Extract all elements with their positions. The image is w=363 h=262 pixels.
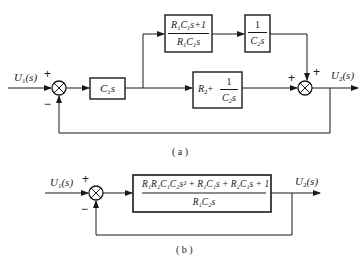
input-symbol: U: [14, 71, 22, 83]
input-label-b: U1(s): [50, 177, 73, 190]
s-symbol: s: [111, 82, 115, 94]
block-middle-denominator: C2s: [222, 92, 236, 104]
block-c1s-label: C1s: [100, 83, 115, 96]
fraction-bar: [248, 32, 267, 33]
summing-junction-b: [89, 186, 103, 200]
caption-a: ( a ): [172, 147, 188, 157]
block-middle-r2: R2+: [198, 84, 213, 96]
input-label-a: U1(s): [14, 72, 37, 85]
input-arg: (s): [25, 71, 37, 83]
caption-b: ( b ): [176, 245, 193, 255]
block-top-1-fraction: R1C1s+1 R1C1s: [168, 19, 209, 48]
plus-operator: +: [208, 83, 214, 94]
block-top-2-denominator: C2s: [251, 35, 265, 47]
block-middle-numerator: 1: [227, 76, 232, 87]
output-label-b: U2(s): [295, 176, 318, 189]
output-label-a: U2(s): [331, 70, 354, 83]
block-middle-fraction: 1 C2s: [220, 76, 238, 104]
sum-b-minus-sign: −: [81, 203, 88, 215]
summing-junction-2: [298, 81, 312, 95]
sum2-plus-top: +: [313, 66, 320, 78]
fraction-bar: [168, 33, 209, 34]
sum1-plus-sign: +: [44, 68, 51, 80]
block-top-2-fraction: 1 C2s: [248, 19, 267, 47]
fraction-bar: [220, 89, 238, 90]
sum-b-plus-sign: +: [82, 173, 89, 185]
block-top-1-numerator: R1C1s+1: [171, 19, 206, 31]
branch-line: [143, 34, 164, 88]
block-top-1-denominator: R1C1s: [177, 36, 200, 48]
block-top-2-numerator: 1: [255, 19, 260, 30]
block-b-numerator: R₁R₂C₁C₂s² + R₁C₁s + R₂C₁s + 1: [142, 180, 266, 190]
block-b-denominator: R₁C₂s: [142, 198, 266, 208]
sum1-minus-sign: −: [44, 98, 51, 110]
summing-junction-1: [52, 81, 66, 95]
sum2-plus-left: +: [288, 72, 295, 84]
